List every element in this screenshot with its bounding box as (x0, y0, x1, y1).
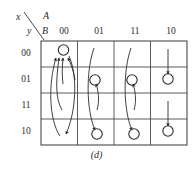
arrow-col0-r3-to-r0 (51, 58, 60, 136)
state-col2-row1 (127, 75, 137, 85)
figure-caption: (d) (0, 149, 193, 160)
axis-label-A: A (43, 11, 49, 21)
row-header-0: 00 (14, 48, 38, 59)
state-col3-row3 (163, 126, 173, 136)
state-col1-row3 (92, 129, 102, 139)
column-header-3: 10 (158, 26, 184, 37)
state-col0-row0 (58, 45, 68, 55)
row-header-1: 01 (14, 74, 38, 85)
arrow-col0-r2-to-r0 (57, 58, 62, 110)
arrow-col0-r0-to-r3 (66, 56, 75, 134)
arrow-col1-r2-to-r1 (96, 84, 99, 110)
arrow-col1-r0-to-r3 (88, 48, 95, 130)
axis-label-x: x (16, 12, 20, 22)
state-col1-row1 (90, 75, 100, 85)
arrow-col2-r0-to-r3 (125, 48, 132, 130)
column-header-1: 01 (86, 26, 112, 37)
state-col3-row1 (163, 74, 173, 84)
karnaugh-state-diagram: x y A B 00 01 11 10 00 01 11 10 (d) (0, 0, 193, 171)
axis-label-B: B (42, 26, 48, 36)
arrow-col2-r2-to-r1 (133, 84, 136, 110)
axis-label-y: y (27, 26, 31, 36)
state-col2-row3 (129, 129, 139, 139)
row-header-2: 11 (14, 100, 38, 111)
row-header-3: 10 (14, 126, 38, 137)
arrow-col0-r1-to-r0 (62, 58, 63, 84)
column-header-2: 11 (122, 26, 148, 37)
column-header-0: 00 (51, 26, 77, 37)
